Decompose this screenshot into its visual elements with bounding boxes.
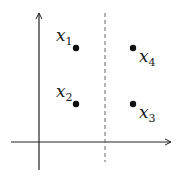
point-x1	[73, 45, 79, 51]
label-x1: x1	[56, 25, 73, 48]
label-x2: x2	[56, 81, 73, 104]
label-x3: x3	[139, 102, 156, 125]
diagram-canvas: x1 x2 x3 x4	[0, 0, 179, 180]
label-x4: x4	[139, 46, 156, 69]
point-x2	[73, 101, 79, 107]
point-x3	[130, 101, 136, 107]
point-x4	[130, 45, 136, 51]
